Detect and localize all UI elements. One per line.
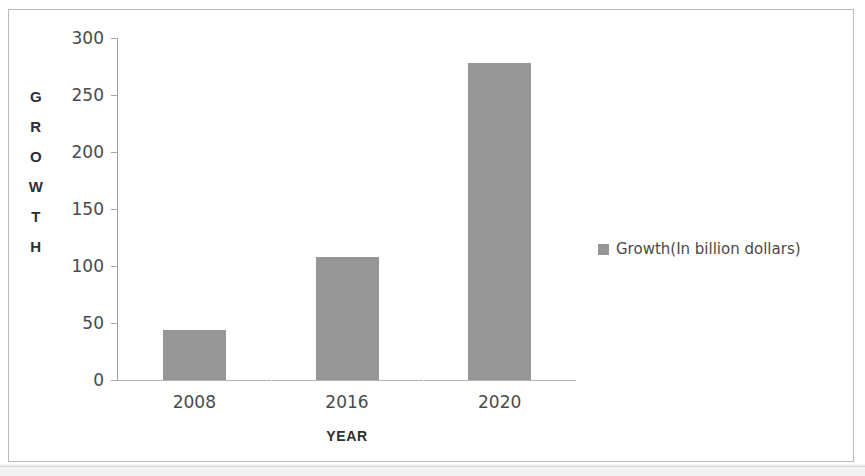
x-axis-tick-label: 2016: [271, 392, 424, 412]
bar: [316, 257, 379, 380]
plot-area: [118, 38, 576, 380]
y-axis-tick-label: 0: [93, 370, 104, 390]
y-axis-title-letter: T: [22, 202, 50, 232]
scan-artifact-line: [0, 466, 865, 467]
legend-swatch-growth: [598, 244, 609, 255]
y-axis-tick-label: 150: [72, 199, 104, 219]
y-axis-tick-mark: [111, 266, 118, 267]
y-axis-tick-mark: [111, 152, 118, 153]
bar: [468, 63, 531, 380]
y-axis-tick-label: 300: [72, 28, 104, 48]
x-axis-tick-label: 2020: [423, 392, 576, 412]
y-axis-tick-mark: [111, 209, 118, 210]
x-axis-tick-label: 2008: [118, 392, 271, 412]
y-axis-tick-label: 200: [72, 142, 104, 162]
y-axis-title-letter: G: [22, 82, 50, 112]
bar-chart-figure: G R O W T H 300250200150100500 200820162…: [0, 0, 865, 476]
y-axis-tick-label: 50: [82, 313, 104, 333]
y-axis-tick-mark: [111, 380, 118, 381]
y-axis-title-letter: W: [22, 172, 50, 202]
x-axis-title: YEAR: [118, 428, 576, 444]
x-axis-tick-labels: 200820162020: [118, 392, 576, 420]
y-axis-title-letter: R: [22, 112, 50, 142]
y-axis-tick-mark: [111, 95, 118, 96]
x-axis-line: [117, 380, 576, 381]
bar: [163, 330, 226, 380]
y-axis-tick-label: 250: [72, 85, 104, 105]
y-axis-title-letter: O: [22, 142, 50, 172]
y-axis-tick-label: 100: [72, 256, 104, 276]
y-axis-title-letter: H: [22, 232, 50, 262]
y-axis-title: G R O W T H: [22, 82, 50, 262]
chart-legend: Growth(In billion dollars): [598, 240, 801, 258]
y-axis-tick-labels: 300250200150100500: [52, 30, 110, 390]
legend-label-growth: Growth(In billion dollars): [616, 240, 801, 258]
y-axis-tick-mark: [111, 38, 118, 39]
y-axis-tick-mark: [111, 323, 118, 324]
